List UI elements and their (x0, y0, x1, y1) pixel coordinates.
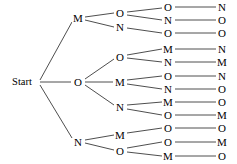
tree-edge (85, 85, 114, 105)
tree-node: M (216, 110, 228, 121)
tree-edge (127, 142, 162, 148)
tree-edge (85, 59, 114, 79)
tree-node: N (217, 71, 227, 82)
tree-node: O (217, 97, 227, 108)
tree-node: M (72, 13, 84, 24)
tree-root-node: Start (11, 77, 33, 88)
tree-edge (127, 15, 162, 20)
tree-node: O (163, 137, 173, 148)
tree-edge (127, 58, 162, 62)
tree-node: N (163, 15, 173, 26)
tree-node: M (162, 151, 174, 162)
tree-node: O (163, 28, 173, 39)
tree-node: O (163, 71, 173, 82)
tree-edge (40, 22, 72, 80)
tree-edge (85, 13, 114, 17)
tree-node: M (162, 97, 174, 108)
tree-edge (85, 20, 114, 27)
tree-node: O (217, 123, 227, 134)
tree-node: N (217, 2, 227, 13)
tree-edge (127, 84, 162, 89)
tree-diagram: StartMONONOMNMOONOMNONMOOOMNOONMNOOMOMO (0, 0, 237, 164)
tree-node: O (217, 151, 227, 162)
tree-edge (127, 128, 162, 133)
tree-edge (127, 109, 162, 115)
tree-node: O (217, 28, 227, 39)
tree-node: N (163, 84, 173, 95)
tree-node: M (216, 137, 228, 148)
tree-edge (127, 102, 162, 105)
tree-node: O (163, 110, 173, 121)
tree-edge (40, 85, 72, 138)
tree-node: O (115, 146, 125, 157)
tree-node: O (115, 8, 125, 19)
tree-node: N (115, 22, 125, 33)
tree-node: M (162, 44, 174, 55)
tree-edge (127, 8, 162, 12)
tree-node: N (115, 102, 125, 113)
tree-node: O (217, 15, 227, 26)
tree-node: O (73, 77, 83, 88)
tree-node: O (217, 84, 227, 95)
tree-node: O (163, 2, 173, 13)
tree-edge (127, 49, 162, 55)
tree-node: M (114, 77, 126, 88)
tree-edge (127, 28, 162, 33)
tree-node: M (114, 130, 126, 141)
tree-node: N (217, 44, 227, 55)
tree-node: N (163, 57, 173, 68)
tree-node: O (163, 123, 173, 134)
tree-edge (85, 135, 114, 140)
tree-edge (85, 143, 114, 150)
tree-node: N (73, 137, 83, 148)
tree-edge (127, 76, 162, 80)
tree-edge (127, 152, 162, 156)
tree-node: M (216, 57, 228, 68)
tree-node: O (115, 52, 125, 63)
